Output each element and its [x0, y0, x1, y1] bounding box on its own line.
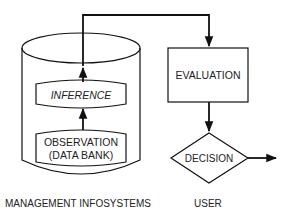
evaluation-label: EVALUATION [176, 69, 241, 81]
caption-user: USER [194, 198, 222, 209]
caption-management-infosystems: MANAGEMENT INFOSYSTEMS [5, 198, 151, 209]
decision-label: DECISION [185, 153, 233, 164]
inference-label: INFERENCE [51, 89, 113, 101]
observation-label-line2: (DATA BANK) [49, 149, 113, 161]
observation-label-line1: OBSERVATION [44, 136, 118, 148]
diagram-canvas: INFERENCE OBSERVATION (DATA BANK) EVALUA… [0, 0, 290, 220]
